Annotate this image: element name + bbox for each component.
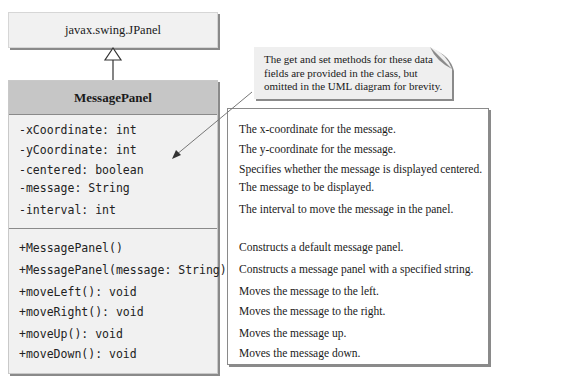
note-pointer-arrow	[0, 0, 569, 377]
